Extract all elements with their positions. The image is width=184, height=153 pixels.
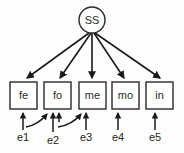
indicator-label-mo: mo: [118, 89, 133, 101]
indicator-me[interactable]: me: [79, 82, 106, 109]
indicator-fo[interactable]: fo: [44, 82, 71, 109]
latent-label-ss: SS: [85, 14, 100, 26]
factor-loading-paths: [27, 33, 160, 78]
path-e1-to-fo-arc: [26, 114, 47, 127]
sem-path-diagram: SS fe fo me mo in e1 e2 e3 e4: [0, 0, 184, 153]
indicator-fe[interactable]: fe: [10, 82, 37, 109]
indicator-label-fo: fo: [53, 89, 62, 101]
path-ss-to-mo: [94, 33, 124, 78]
diagram-canvas: SS fe fo me mo in e1 e2 e3 e4: [0, 0, 184, 153]
error-labels: e1 e2 e3 e4 e5: [17, 131, 161, 146]
error-label-e2: e2: [47, 134, 59, 146]
path-ss-to-in: [95, 33, 160, 78]
indicator-label-in: in: [155, 89, 164, 101]
latent-variable-ss[interactable]: SS: [79, 7, 105, 33]
error-label-e4: e4: [112, 131, 124, 143]
indicator-label-me: me: [85, 89, 100, 101]
error-paths: [23, 113, 155, 132]
path-ss-to-fe: [27, 33, 89, 78]
error-label-e1: e1: [17, 131, 29, 143]
indicator-in[interactable]: in: [146, 82, 173, 109]
path-e2-to-me-arc: [58, 114, 81, 127]
indicator-mo[interactable]: mo: [112, 82, 139, 109]
indicator-label-fe: fe: [19, 89, 28, 101]
error-label-e3: e3: [80, 131, 92, 143]
error-label-e5: e5: [149, 131, 161, 143]
path-ss-to-fo: [60, 33, 91, 78]
